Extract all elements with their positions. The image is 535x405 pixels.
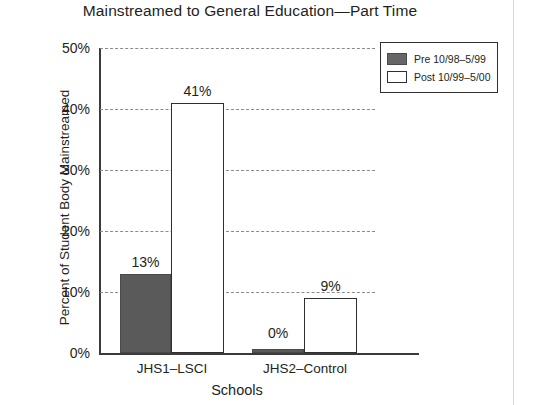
bar-jhs2-post[interactable]: 9%	[304, 298, 357, 353]
legend-item-post[interactable]: Post 10/99–5/00	[387, 68, 490, 85]
x-category-label-jhs2: JHS2–Control	[263, 361, 347, 376]
x-axis-title: Schools	[99, 382, 375, 398]
y-tick-label-50: 50%	[38, 40, 90, 56]
bar-jhs1-pre[interactable]: 13%	[120, 274, 171, 353]
plot-area: 50% 40% 30% 20% 10% 0% 13% 41% 0% 9% JHS…	[99, 48, 375, 353]
bar-jhs2-pre[interactable]: 0%	[252, 349, 304, 353]
x-category-label-jhs1: JHS1–LSCI	[137, 361, 208, 376]
chart-title: Mainstreamed to General Education—Part T…	[0, 2, 500, 20]
bar-value-jhs2-post: 9%	[320, 278, 340, 294]
gridline-50	[100, 48, 375, 49]
y-tick-label-40: 40%	[38, 101, 90, 117]
gridline-40	[100, 109, 375, 110]
legend-swatch-post-icon	[387, 71, 407, 83]
legend-item-pre[interactable]: Pre 10/98–5/99	[387, 50, 490, 67]
y-axis-line	[99, 48, 101, 353]
legend-label-post: Post 10/99–5/00	[414, 71, 490, 83]
y-tick-label-20: 20%	[38, 223, 90, 239]
bar-jhs1-post[interactable]: 41%	[171, 103, 224, 353]
legend-swatch-pre-icon	[387, 53, 407, 65]
page-edge-line	[513, 0, 514, 405]
bar-value-jhs1-post: 41%	[183, 83, 211, 99]
gridline-30	[100, 170, 375, 171]
bar-value-jhs1-pre: 13%	[131, 254, 159, 270]
x-axis-line	[99, 353, 419, 355]
y-tick-label-0: 0%	[38, 345, 90, 361]
legend-label-pre: Pre 10/98–5/99	[414, 53, 486, 65]
y-tick-label-10: 10%	[38, 284, 90, 300]
legend: Pre 10/98–5/99 Post 10/99–5/00	[380, 42, 498, 93]
bar-value-jhs2-pre: 0%	[268, 325, 288, 341]
gridline-20	[100, 231, 375, 232]
y-tick-label-30: 30%	[38, 162, 90, 178]
